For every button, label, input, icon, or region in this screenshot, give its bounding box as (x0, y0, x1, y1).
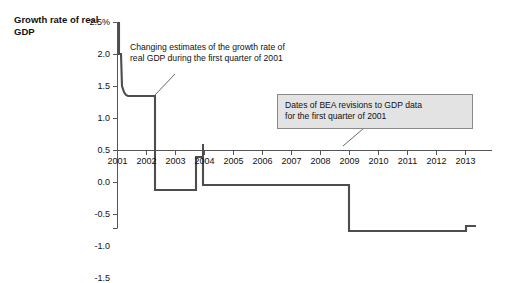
y-tick-label-1.0: 1.0 (78, 113, 110, 123)
x-tick-label-2009: 2009 (335, 156, 364, 166)
y-tick-label-0.0: 0.0 (78, 177, 110, 187)
y-tick-label-0.5: 0.5 (78, 145, 110, 155)
x-tick-label-2013: 2013 (451, 156, 480, 166)
leader-line-growth-note (154, 74, 175, 96)
y-tick-label-2.5: 2.5% (78, 17, 110, 27)
x-tick-label-2008: 2008 (306, 156, 335, 166)
x-tick-label-2001: 2001 (103, 156, 132, 166)
y-axis-ticks (113, 23, 118, 229)
x-axis-ticks (118, 151, 466, 156)
x-tick-label-2003: 2003 (161, 156, 190, 166)
x-tick-label-2005: 2005 (219, 156, 248, 166)
y-tick-label-2.0: 2.0 (78, 49, 110, 59)
y-tick-label-neg1.0: -1.0 (74, 241, 110, 251)
y-tick-label-1.5: 1.5 (78, 81, 110, 91)
leader-line-bea-note (343, 128, 364, 146)
x-tick-label-2010: 2010 (364, 156, 393, 166)
annotation-growth-estimates: Changing estimates of the growth rate of… (130, 42, 345, 64)
x-tick-label-2002: 2002 (132, 156, 161, 166)
x-tick-label-2004: 2004 (190, 156, 219, 166)
y-tick-label-neg0.5: -0.5 (74, 209, 110, 219)
x-tick-label-2006: 2006 (248, 156, 277, 166)
x-tick-label-2012: 2012 (422, 156, 451, 166)
annotation-bea-revision-dates: Dates of BEA revisions to GDP data for t… (277, 94, 473, 129)
y-tick-label-neg1.5: -1.5 (74, 273, 110, 283)
x-tick-label-2011: 2011 (393, 156, 422, 166)
x-tick-label-2007: 2007 (277, 156, 306, 166)
